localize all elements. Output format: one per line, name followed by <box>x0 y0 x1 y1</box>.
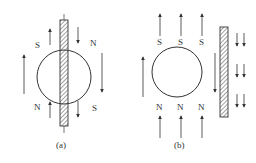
caption-a: (a) <box>56 140 66 150</box>
diagram-canvas: S N N S (a) S S S N N N (b) <box>0 0 256 163</box>
panel-a: S N N S (a) <box>24 14 102 150</box>
pole-label-s-1-b: S <box>157 37 162 47</box>
pole-label-n-1-b: N <box>156 102 163 112</box>
hatched-conductor-b <box>220 27 228 117</box>
panel-b: S S S N N N (b) <box>143 14 244 150</box>
pole-label-s-2-b: S <box>178 37 183 47</box>
pole-label-s-bottom-right: S <box>92 103 97 113</box>
hatched-conductor-a <box>60 20 68 126</box>
pole-label-s-top-left: S <box>35 40 40 50</box>
pole-label-n-2-b: N <box>177 102 184 112</box>
caption-b: (b) <box>174 140 185 150</box>
pole-label-n-bottom-left: N <box>34 102 41 112</box>
pole-label-n-top-right: N <box>90 38 97 48</box>
pole-label-n-3-b: N <box>198 102 205 112</box>
pole-label-s-3-b: S <box>199 37 204 47</box>
rotor-circle-b <box>152 47 202 97</box>
